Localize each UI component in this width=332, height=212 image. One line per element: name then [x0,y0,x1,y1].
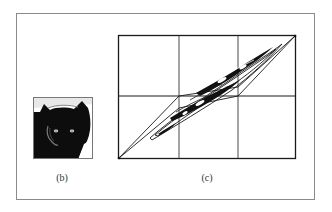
contour-plot [0,0,332,212]
contour-1 [150,44,282,140]
panel-label-c: (c) [187,172,227,183]
contour-dense-lower [170,80,240,121]
